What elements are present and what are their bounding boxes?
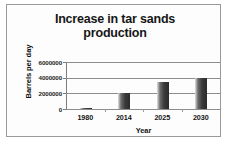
y-tick-label: 2000000 xyxy=(16,90,62,97)
x-tick-mark xyxy=(220,109,221,112)
x-tick-mark xyxy=(143,109,144,112)
y-tick-mark xyxy=(63,78,66,79)
y-tick-label: 0 xyxy=(16,106,62,113)
chart-frame: Increase in tar sands production Barrels… xyxy=(6,4,221,137)
x-tick-label: 2025 xyxy=(142,113,182,122)
bar xyxy=(157,82,169,109)
x-tick-mark xyxy=(105,109,106,112)
x-tick-label: 2030 xyxy=(181,113,221,122)
x-tick-label: 1980 xyxy=(65,113,105,122)
y-tick-label: 4000000 xyxy=(16,74,62,81)
bar xyxy=(118,93,130,109)
y-tick-label: 6000000 xyxy=(16,59,62,66)
bar xyxy=(195,78,207,109)
x-tick-label: 2014 xyxy=(104,113,144,122)
y-tick-mark xyxy=(63,93,66,94)
x-tick-mark xyxy=(182,109,183,112)
y-tick-mark xyxy=(63,62,66,63)
chart-title-line-2: production xyxy=(21,26,209,40)
bar xyxy=(80,108,92,109)
plot-area xyxy=(66,62,220,109)
chart-title-line-1: Increase in tar sands xyxy=(21,12,209,26)
chart-title: Increase in tar sands production xyxy=(21,12,209,40)
y-tick-mark xyxy=(63,109,66,110)
x-axis-title: Year xyxy=(66,126,221,135)
gridline xyxy=(66,62,220,63)
